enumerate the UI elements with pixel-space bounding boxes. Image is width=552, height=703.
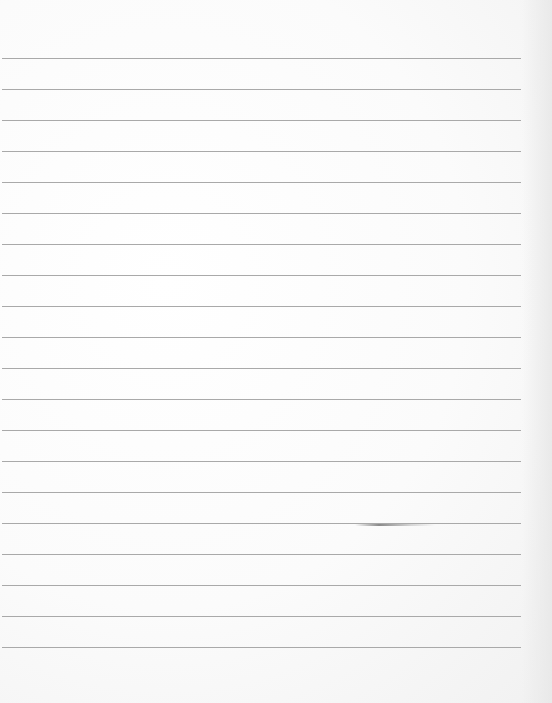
ruled-line: [2, 120, 521, 121]
ruled-line: [2, 616, 521, 617]
ruled-line: [2, 430, 521, 431]
ruled-line: [2, 554, 521, 555]
ruled-line: [2, 58, 521, 59]
ruled-line: [2, 89, 521, 90]
ruled-line: [2, 306, 521, 307]
ruled-line: [2, 275, 521, 276]
lined-paper-sheet: [0, 0, 552, 703]
pencil-smudge: [355, 524, 435, 526]
ruled-line: [2, 523, 521, 524]
ruled-line: [2, 182, 521, 183]
ruled-line: [2, 585, 521, 586]
ruled-line: [2, 151, 521, 152]
ruled-line: [2, 399, 521, 400]
ruled-line: [2, 461, 521, 462]
ruled-line: [2, 492, 521, 493]
ruled-line: [2, 337, 521, 338]
ruled-line: [2, 244, 521, 245]
ruled-line: [2, 647, 521, 648]
ruled-line: [2, 213, 521, 214]
ruled-line: [2, 368, 521, 369]
